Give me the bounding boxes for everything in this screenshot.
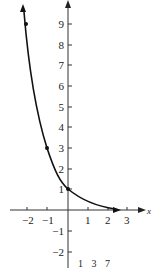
svg-text:6: 6 xyxy=(59,80,65,92)
svg-text:2: 2 xyxy=(105,214,111,226)
svg-text:7: 7 xyxy=(59,59,65,71)
caption-text: 1 3 7 xyxy=(78,258,113,269)
y-axis-arrow-icon xyxy=(65,0,71,8)
y-ticks xyxy=(68,24,72,252)
exponential-plot: −2 −1 1 2 3 x 9 8 7 6 5 4 3 2 1 −1 −2 xyxy=(0,0,153,276)
x-axis-label: x xyxy=(146,206,151,216)
svg-text:3: 3 xyxy=(124,214,130,226)
svg-text:−1: −1 xyxy=(52,225,64,237)
svg-text:5: 5 xyxy=(59,101,65,113)
point-neg2-9 xyxy=(24,22,28,26)
x-tick-labels: −2 −1 1 2 3 xyxy=(22,214,130,226)
svg-text:2: 2 xyxy=(59,163,65,175)
svg-text:−2: −2 xyxy=(52,246,64,258)
svg-text:−2: −2 xyxy=(22,214,34,226)
point-0-1 xyxy=(66,187,70,191)
svg-text:1: 1 xyxy=(85,214,91,226)
svg-text:8: 8 xyxy=(59,39,65,51)
exponential-curve xyxy=(24,12,115,209)
point-neg1-3 xyxy=(45,146,49,150)
x-axis-arrow-icon xyxy=(138,207,146,213)
y-tick-labels: 9 8 7 6 5 4 3 2 1 −1 −2 xyxy=(52,18,64,258)
svg-text:3: 3 xyxy=(59,142,65,154)
curve-arrow-up-icon xyxy=(20,4,26,12)
curve-arrow-right-icon xyxy=(113,207,121,213)
svg-text:4: 4 xyxy=(59,121,65,133)
svg-text:9: 9 xyxy=(59,18,65,30)
